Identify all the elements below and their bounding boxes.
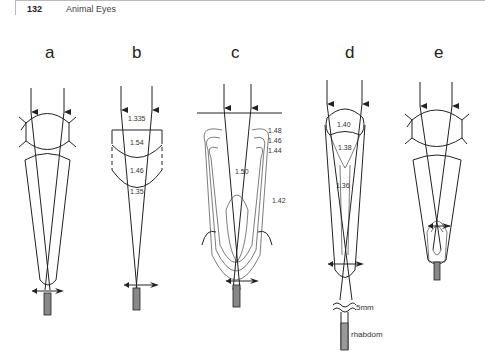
ri-146: 1.46 (130, 167, 144, 174)
ri-154: 1.54 (130, 139, 144, 146)
panel-d-diagram: 1.40 1.38 1.36 5mm rhabdom (325, 80, 383, 350)
ri-135: 1.35 (130, 188, 144, 195)
ri-136: 1.36 (336, 182, 350, 189)
ri-142: 1.42 (272, 197, 286, 204)
panel-label-d: d (345, 43, 354, 62)
panel-label-b: b (132, 43, 141, 62)
ri-1335: 1.335 (128, 115, 146, 122)
panel-label-e: e (434, 43, 443, 62)
ri-140: 1.40 (337, 121, 351, 128)
ri-144: 1.44 (268, 147, 282, 154)
panel-a-diagram (19, 88, 76, 315)
ri-138: 1.38 (338, 144, 352, 151)
ri-150: 1.50 (235, 168, 249, 175)
panel-e-diagram (405, 82, 469, 280)
scale-5mm: 5mm (356, 303, 374, 312)
panel-c-diagram: 1.48 1.46 1.44 1.50 1.42 (197, 84, 286, 307)
panel-label-c: c (231, 43, 240, 62)
ri-148: 1.48 (268, 127, 282, 134)
rhabdom-label: rhabdom (351, 330, 383, 339)
panel-b-diagram: 1.335 1.54 1.46 1.35 (112, 86, 162, 310)
ri-146-c: 1.46 (268, 137, 282, 144)
panel-label-a: a (45, 43, 55, 62)
